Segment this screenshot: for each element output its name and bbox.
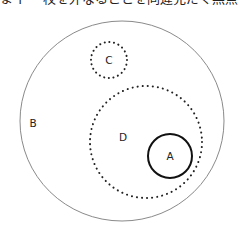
set-diagram: B C D A (0, 0, 238, 234)
label-a: A (166, 150, 174, 162)
label-b: B (29, 117, 36, 129)
circle-d (90, 86, 202, 198)
circle-b (20, 21, 224, 221)
label-d: D (119, 131, 127, 143)
label-c: C (105, 54, 112, 66)
